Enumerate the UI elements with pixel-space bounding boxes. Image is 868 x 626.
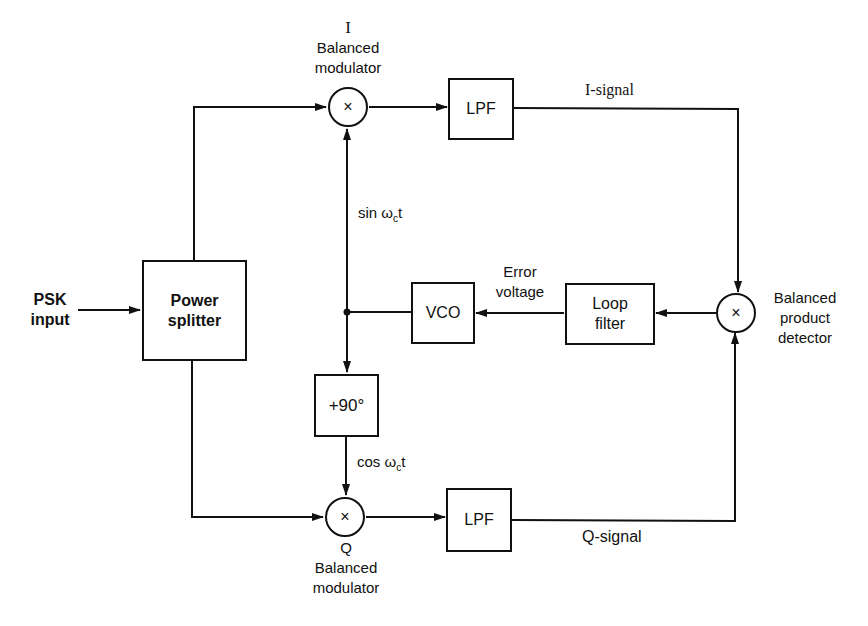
sin-suffix: t bbox=[398, 204, 402, 221]
wire-q-signal bbox=[512, 333, 735, 521]
psk-input-line2: input bbox=[22, 310, 78, 330]
i-modulator-mixer: × bbox=[328, 87, 368, 127]
product-detector-line2: product bbox=[768, 308, 842, 328]
error-voltage-line1: Error bbox=[490, 262, 550, 282]
lpf-bottom-block: LPF bbox=[446, 488, 512, 552]
sin-label: sin ωct bbox=[358, 203, 402, 229]
vco-label: VCO bbox=[426, 303, 461, 323]
psk-input-label: PSK input bbox=[22, 290, 78, 330]
q-modulator-line1: Balanced bbox=[288, 558, 404, 578]
i-modulator-label: I Balanced modulator bbox=[290, 18, 406, 78]
multiply-icon: × bbox=[343, 98, 352, 116]
q-modulator-label: Q Balanced modulator bbox=[288, 538, 404, 598]
q-modulator-mixer: × bbox=[325, 497, 365, 537]
loop-filter-block: Loop filter bbox=[565, 283, 655, 345]
wire-splitter-to-q-mod bbox=[192, 360, 323, 517]
multiply-icon: × bbox=[731, 304, 740, 322]
i-signal-label: I-signal bbox=[585, 80, 634, 100]
q-signal-label: Q-signal bbox=[582, 527, 642, 547]
q-modulator-line2: modulator bbox=[288, 578, 404, 598]
cos-prefix: cos ω bbox=[357, 453, 396, 470]
multiply-icon: × bbox=[340, 508, 349, 526]
i-modulator-title: I bbox=[290, 18, 406, 38]
junction-dot bbox=[344, 309, 351, 316]
product-detector-mixer: × bbox=[716, 293, 756, 333]
i-modulator-line2: modulator bbox=[290, 58, 406, 78]
power-splitter-block: Power splitter bbox=[142, 260, 247, 361]
power-splitter-line2: splitter bbox=[168, 311, 221, 331]
phase-shift-block: +90° bbox=[314, 374, 379, 437]
product-detector-line3: detector bbox=[768, 328, 842, 348]
i-modulator-line1: Balanced bbox=[290, 38, 406, 58]
cos-suffix: t bbox=[401, 453, 405, 470]
loop-filter-line2: filter bbox=[595, 314, 625, 334]
lpf-top-block: LPF bbox=[448, 78, 514, 140]
lpf-top-label: LPF bbox=[466, 99, 495, 119]
psk-input-line1: PSK bbox=[22, 290, 78, 310]
error-voltage-line2: voltage bbox=[490, 282, 550, 302]
cos-label: cos ωct bbox=[357, 452, 405, 478]
vco-block: VCO bbox=[411, 282, 475, 344]
wire-splitter-to-i-mod bbox=[194, 107, 326, 260]
sin-prefix: sin ω bbox=[358, 204, 393, 221]
q-modulator-title: Q bbox=[288, 538, 404, 558]
power-splitter-line1: Power bbox=[170, 291, 218, 311]
loop-filter-line1: Loop bbox=[592, 294, 628, 314]
error-voltage-label: Error voltage bbox=[490, 262, 550, 302]
phase-shift-label: +90° bbox=[329, 396, 365, 416]
lpf-bottom-label: LPF bbox=[464, 510, 493, 530]
product-detector-label: Balanced product detector bbox=[768, 288, 842, 348]
product-detector-line1: Balanced bbox=[768, 288, 842, 308]
